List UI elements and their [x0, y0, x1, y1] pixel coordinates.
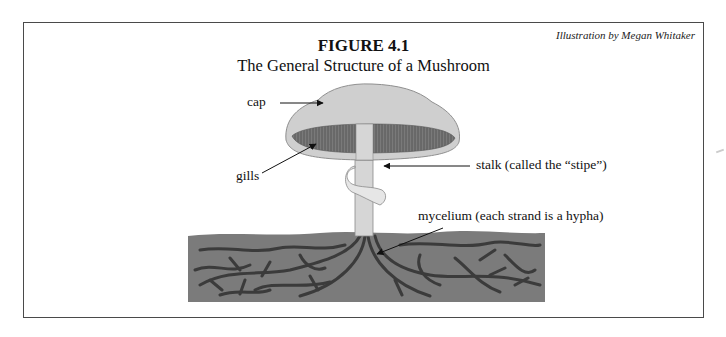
stalk [346, 160, 386, 236]
gills-arrow [262, 144, 316, 173]
cap [286, 84, 460, 160]
label-gills: gills [236, 168, 259, 184]
label-stalk: stalk (called the “stipe”) [476, 157, 607, 173]
gills [292, 124, 455, 153]
soil-block [188, 231, 545, 302]
label-mycelium: mycelium (each strand is a hypha) [418, 208, 604, 224]
mushroom-illustration [0, 0, 726, 337]
label-cap: cap [247, 94, 266, 110]
